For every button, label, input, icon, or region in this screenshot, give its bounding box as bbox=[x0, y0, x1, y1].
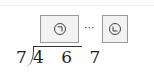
ellipsis-separator: ··· bbox=[84, 21, 95, 34]
nieun-glyph-icon bbox=[112, 26, 118, 32]
circled-giyeok-icon bbox=[54, 23, 66, 35]
top-divider bbox=[0, 5, 154, 6]
remainder-answer-box[interactable] bbox=[102, 15, 128, 43]
giyeok-glyph-icon bbox=[57, 26, 63, 32]
dividend: 4 6 7 bbox=[33, 48, 106, 66]
circled-nieun-icon bbox=[109, 23, 121, 35]
quotient-answer-box[interactable] bbox=[40, 15, 79, 43]
